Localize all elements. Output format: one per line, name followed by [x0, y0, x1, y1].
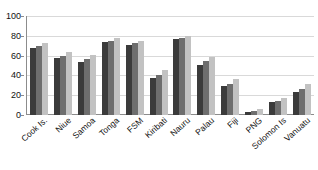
- x-axis-tick-label: Kiribati: [143, 116, 168, 140]
- bar-group: [150, 16, 168, 115]
- y-axis-tick-mark: [21, 115, 24, 116]
- bar: [281, 98, 287, 115]
- bar-group: [78, 16, 96, 115]
- x-axis-tick-label: Vanuatu: [283, 116, 312, 143]
- bar-group: [269, 16, 287, 115]
- bar: [257, 109, 263, 115]
- bar-group: [54, 16, 72, 115]
- x-axis-tick-label: Niue: [54, 116, 73, 134]
- y-axis-tick-label: 20: [11, 91, 21, 100]
- y-axis-tick-label: 80: [11, 31, 21, 40]
- x-axis-tick-label: Tonga: [97, 116, 120, 138]
- bar: [233, 79, 239, 115]
- bar-group: [126, 16, 144, 115]
- y-axis-tick-mark: [21, 16, 24, 17]
- bar-group: [102, 16, 120, 115]
- x-axis-tick-label: Nauru: [169, 116, 192, 138]
- bar: [138, 41, 144, 115]
- bar: [90, 55, 96, 115]
- bar-group: [173, 16, 191, 115]
- y-axis-tick-mark: [21, 75, 24, 76]
- y-axis-tick-label: 100: [6, 12, 21, 21]
- y-axis-tick-mark: [21, 95, 24, 96]
- x-axis-tick-label: Palau: [194, 116, 216, 137]
- bar: [162, 70, 168, 115]
- bar: [305, 84, 311, 115]
- y-axis-tick-mark: [21, 56, 24, 57]
- y-axis-tick-mark: [21, 36, 24, 37]
- bar-group: [221, 16, 239, 115]
- bar: [114, 38, 120, 115]
- x-axis-tick-label: Cook Is.: [20, 116, 49, 144]
- bar-group: [245, 16, 263, 115]
- x-axis-tick-label: Fiji: [226, 116, 240, 130]
- bars-layer: [27, 16, 314, 115]
- bar: [209, 57, 215, 115]
- bar: [185, 36, 191, 115]
- bar: [42, 43, 48, 115]
- bar-chart: 020406080100 Cook Is.NiueSamoaTongaFSMKi…: [0, 0, 318, 170]
- bar-group: [30, 16, 48, 115]
- x-axis-tick-label: FSM: [125, 116, 144, 135]
- bar: [66, 52, 72, 115]
- y-axis-tick-label: 60: [11, 51, 21, 60]
- y-axis-tick-label: 40: [11, 71, 21, 80]
- y-axis: 020406080100: [0, 16, 24, 115]
- x-axis-tick-label: Samoa: [71, 116, 97, 141]
- x-axis: Cook Is.NiueSamoaTongaFSMKiribatiNauruPa…: [27, 116, 314, 170]
- bar-group: [197, 16, 215, 115]
- bar-group: [293, 16, 311, 115]
